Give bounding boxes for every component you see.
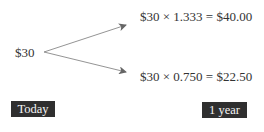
today-label: Today [11, 101, 55, 117]
up-arrow [44, 25, 126, 52]
one-year-label: 1 year [202, 102, 247, 118]
down-arrow [44, 52, 126, 72]
start-value: $30 [15, 46, 35, 59]
down-outcome: $30 × 0.750 = $22.50 [140, 70, 252, 83]
up-outcome: $30 × 1.333 = $40.00 [140, 10, 252, 23]
